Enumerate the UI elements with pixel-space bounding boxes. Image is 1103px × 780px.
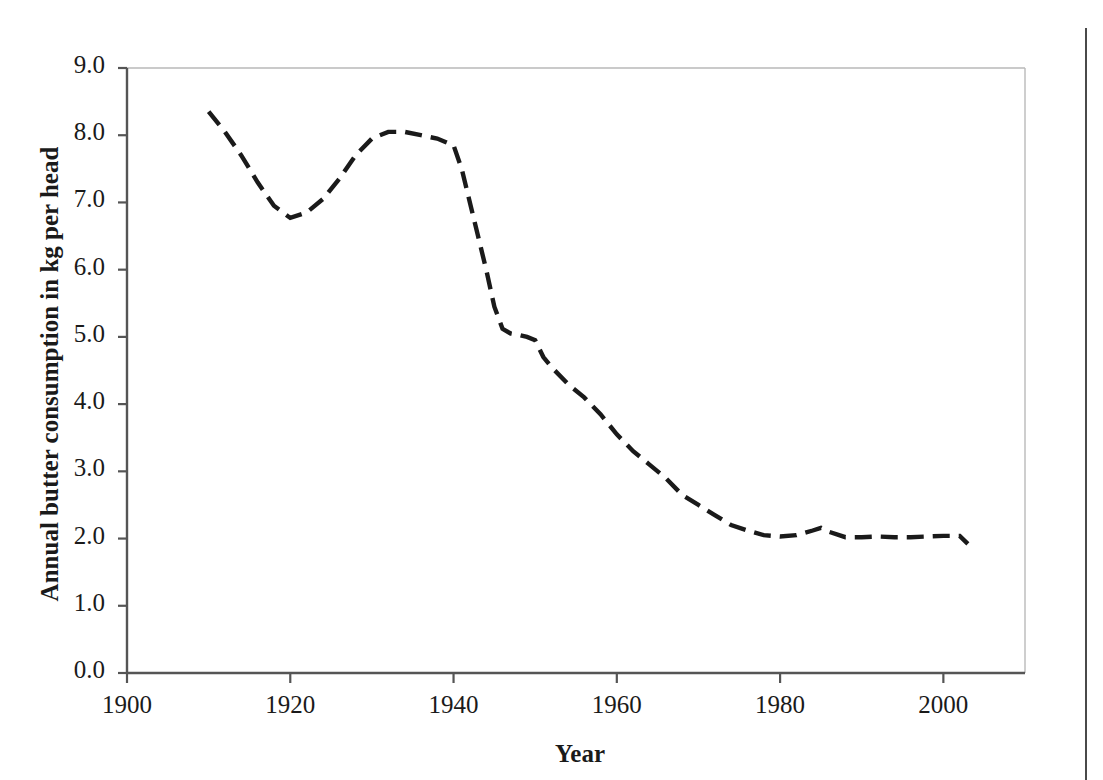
data-series-line [209,112,968,544]
line-chart-plot [0,0,1103,780]
chart-figure: 0.01.02.03.04.05.06.07.08.09.0 190019201… [0,0,1103,780]
x-tick-label: 1980 [720,691,840,719]
y-tick-label: 9.0 [35,51,105,79]
y-tick-label: 0.0 [35,656,105,684]
x-tick-label: 1940 [394,691,514,719]
x-tick-label: 2000 [883,691,1003,719]
x-tick-label: 1960 [557,691,677,719]
x-tick-label: 1920 [230,691,350,719]
plot-frame [127,68,1025,673]
x-tick-label: 1900 [67,691,187,719]
y-axis-title: Annual butter consumption in kg per head [36,94,64,654]
x-axis-title: Year [430,740,730,768]
